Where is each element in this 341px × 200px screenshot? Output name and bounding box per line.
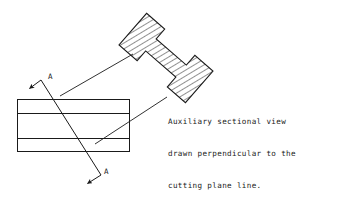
technical-drawing-canvas: A A Auxiliary sectional view drawn perpe…: [0, 0, 341, 200]
annotation-note-line-2: drawn perpendicular to the: [168, 149, 334, 160]
plan-view-group: [18, 100, 130, 152]
leader-line-upper: [60, 54, 133, 96]
section-label-a-top: A: [48, 72, 53, 81]
annotation-note-line-1: Auxiliary sectional view: [168, 117, 334, 128]
i-beam-section-profile: [119, 13, 213, 102]
plan-view-outline: [18, 100, 130, 152]
cutting-plane-arrow-bottom: [88, 175, 102, 184]
annotation-note: Auxiliary sectional view drawn perpendic…: [168, 96, 334, 200]
cutting-plane-arrow-top: [30, 80, 42, 89]
annotation-note-line-3: cutting plane line.: [168, 181, 334, 192]
section-label-a-bottom: A: [104, 167, 109, 176]
auxiliary-section-view-group: [119, 13, 213, 102]
